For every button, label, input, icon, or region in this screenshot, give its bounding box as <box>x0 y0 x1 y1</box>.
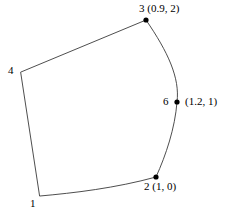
geometry-figure: 3 (0.9, 2) 6 (1.2, 1) 2 (1, 0) 4 1 <box>0 0 226 213</box>
point-label-2: 2 (1, 0) <box>144 181 176 192</box>
point-label-3: 3 (0.9, 2) <box>139 3 179 14</box>
point-label-6-number: 6 <box>163 96 169 107</box>
point-label-4: 4 <box>8 65 14 76</box>
point-marker-3 <box>143 17 148 22</box>
point-label-6-coords: (1.2, 1) <box>185 96 217 107</box>
point-label-1: 1 <box>30 198 36 209</box>
region-outline-path <box>21 20 177 196</box>
point-marker-6 <box>174 99 179 104</box>
point-marker-2 <box>153 174 158 179</box>
